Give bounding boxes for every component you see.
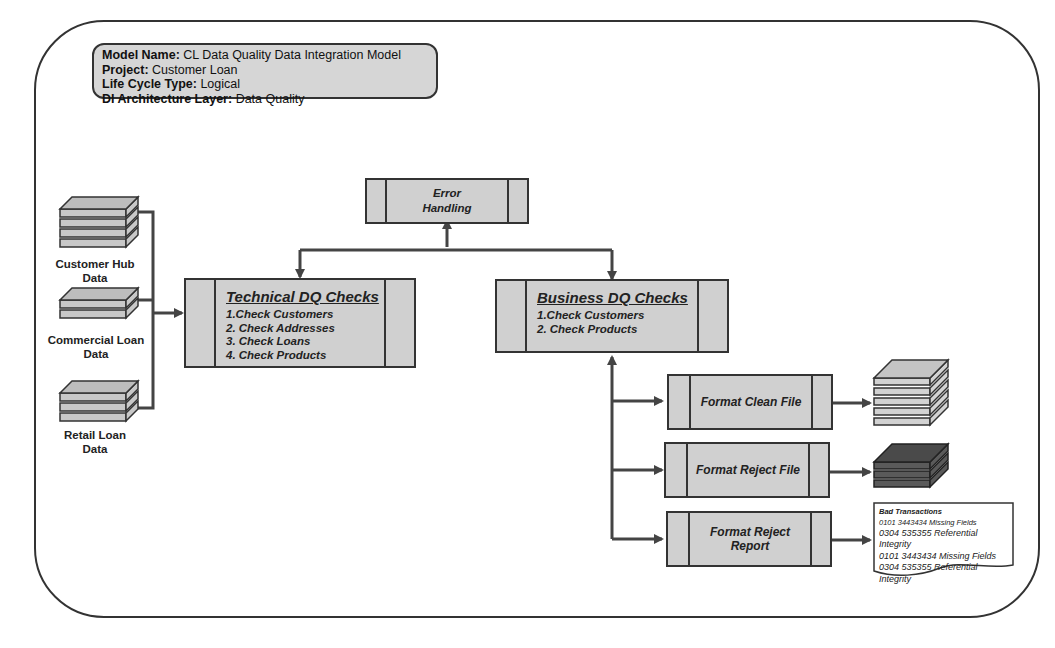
format-reject-report-process: Format Reject Report — [666, 511, 832, 567]
error-handling-process: Error Handling — [365, 178, 529, 224]
project-label: Project: — [102, 63, 149, 77]
business-check-item: 1.Check Customers — [537, 309, 697, 323]
reject-report-line: 0304 535355 Referential Integrity — [879, 562, 1009, 585]
retail-loan-datastore-icon — [60, 381, 138, 421]
customer-hub-datastore-icon — [60, 197, 138, 247]
business-dq-checks-process: Business DQ Checks 1.Check Customers 2. … — [495, 279, 729, 353]
commercial-loan-datastore-icon — [60, 288, 138, 318]
reject-report-document: Bad Transactions 0101 3443434 Missing Fi… — [875, 503, 1013, 569]
clean-file-datastore-icon — [874, 360, 948, 425]
reject-report-line: 0304 535355 Referential Integrity — [879, 528, 1009, 551]
format-reject-file-label: Format Reject File — [688, 444, 808, 496]
life-cycle-value: Logical — [200, 77, 240, 91]
technical-check-item: 4. Check Products — [226, 349, 384, 363]
technical-check-item: 3. Check Loans — [226, 335, 384, 349]
technical-check-item: 2. Check Addresses — [226, 322, 384, 336]
technical-check-item: 1.Check Customers — [226, 308, 384, 322]
layer-value: Data Quality — [236, 92, 305, 106]
model-name-value: CL Data Quality Data Integration Model — [183, 48, 401, 62]
format-clean-file-label: Format Clean File — [691, 376, 811, 428]
technical-checks-title: Technical DQ Checks — [226, 288, 384, 305]
model-name-label: Model Name: — [102, 48, 180, 62]
format-reject-file-process: Format Reject File — [664, 442, 830, 498]
source-commercial-loan-label: Commercial LoanData — [36, 333, 156, 361]
business-checks-title: Business DQ Checks — [537, 289, 697, 306]
error-handling-line2: Handling — [422, 201, 471, 216]
life-cycle-label: Life Cycle Type: — [102, 77, 197, 91]
source-retail-loan-label: Retail LoanData — [40, 428, 150, 456]
business-check-item: 2. Check Products — [537, 323, 697, 337]
technical-dq-checks-process: Technical DQ Checks 1.Check Customers 2.… — [184, 278, 416, 368]
reject-report-line: 0101 3443434 Missing Fields — [879, 518, 1009, 528]
source-customer-hub-label: Customer HubData — [40, 257, 150, 285]
reject-report-title: Bad Transactions — [879, 506, 1009, 518]
format-clean-file-process: Format Clean File — [667, 374, 833, 430]
reject-report-line: 0101 3443434 Missing Fields — [879, 551, 1009, 563]
format-reject-report-label: Format Reject Report — [690, 513, 810, 565]
model-info-box: Model Name: CL Data Quality Data Integra… — [92, 43, 438, 99]
project-value: Customer Loan — [152, 63, 237, 77]
error-handling-line1: Error — [433, 186, 461, 201]
layer-label: DI Architecture Layer: — [102, 92, 232, 106]
reject-file-datastore-icon — [874, 444, 948, 487]
